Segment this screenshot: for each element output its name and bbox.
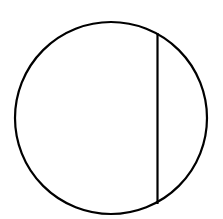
diagram-canvas	[0, 0, 223, 219]
circle-shape	[15, 22, 207, 214]
